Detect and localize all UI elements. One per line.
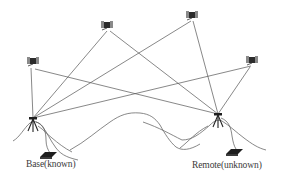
satellite-icon xyxy=(186,11,198,20)
signal-line-sat2-remote xyxy=(110,31,218,114)
satellite-icon xyxy=(27,57,39,66)
signal-line-sat4-remote xyxy=(218,67,250,114)
signal-lines xyxy=(31,21,251,118)
gps-receiver-icon xyxy=(226,149,243,156)
signal-line-sat4-base xyxy=(33,66,251,118)
diagram-canvas xyxy=(0,0,281,179)
base-ridge xyxy=(38,126,72,152)
hill-right xyxy=(222,121,266,150)
receiver-cable xyxy=(221,118,236,149)
base-station-label: Base(known) xyxy=(26,159,76,169)
satellites xyxy=(27,11,258,66)
base-station xyxy=(28,117,57,159)
hill-remote-left xyxy=(143,120,222,140)
gps-receiver-icon xyxy=(40,152,57,159)
remote-station-label: Remote(unknown) xyxy=(192,160,262,170)
gps-baseline-diagram: Base(known) Remote(unknown) xyxy=(0,0,281,179)
receiver-cable xyxy=(36,122,50,153)
signal-line-sat3-remote xyxy=(193,21,218,114)
signal-line-sat1-base xyxy=(31,68,33,118)
hill-middle xyxy=(70,113,200,150)
remote-station xyxy=(213,113,243,156)
tripod-antenna-icon xyxy=(28,117,38,132)
signal-line-sat2-base xyxy=(33,31,107,118)
signal-line-sat3-base xyxy=(33,21,191,118)
signal-line-sat1-remote xyxy=(35,69,218,114)
satellite-icon xyxy=(101,21,113,30)
satellite-icon xyxy=(246,56,258,65)
